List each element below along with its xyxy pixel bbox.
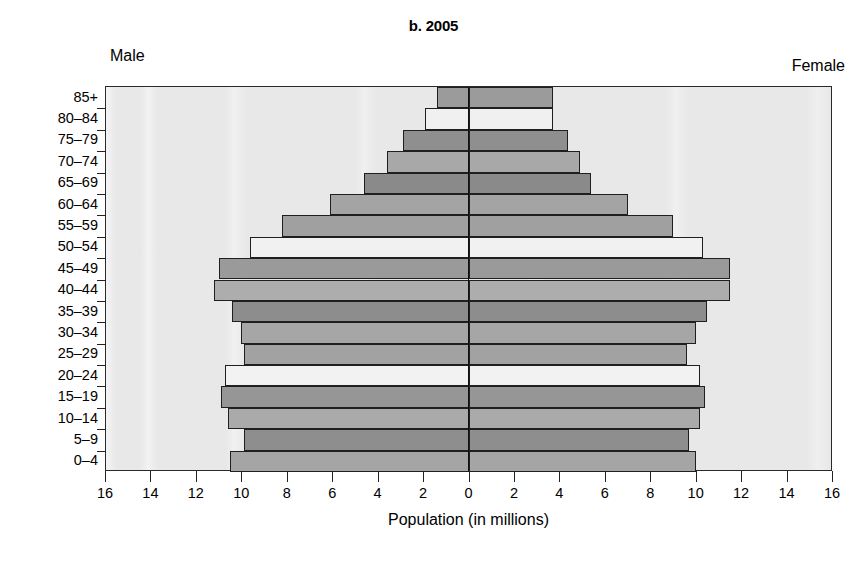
y-axis-label-20-24: 20–24 (32, 368, 98, 383)
x-axis-tick-label: 6 (585, 485, 625, 501)
x-axis-tick-label: 0 (449, 485, 489, 501)
y-axis-tick (97, 429, 106, 430)
bar-female (469, 365, 701, 386)
x-axis-tick (741, 471, 742, 482)
bar-male (221, 386, 469, 407)
bar-male (241, 322, 468, 343)
x-axis-tick (832, 471, 833, 482)
x-axis-tick (378, 471, 379, 482)
zero-axis-line (468, 87, 470, 470)
bar-female (469, 386, 705, 407)
y-axis-label-45-49: 45–49 (32, 261, 98, 276)
x-axis-tick-label: 2 (403, 485, 443, 501)
x-axis-tick-label: 10 (221, 485, 261, 501)
x-axis-tick-label: 4 (358, 485, 398, 501)
y-axis-tick (97, 344, 106, 345)
bar-female (469, 173, 592, 194)
x-axis-tick-label: 10 (676, 485, 716, 501)
y-axis-tick (97, 451, 106, 452)
bar-male (225, 365, 468, 386)
bar-male (219, 258, 469, 279)
bar-female (469, 280, 730, 301)
y-axis-label-85-: 85+ (32, 90, 98, 105)
x-axis-tick-label: 12 (721, 485, 761, 501)
y-axis-label-25-29: 25–29 (32, 346, 98, 361)
x-axis-tick (423, 471, 424, 482)
x-axis-tick (332, 471, 333, 482)
bar-female (469, 87, 553, 108)
bar-female (469, 451, 696, 472)
x-axis-title: Population (in millions) (105, 511, 832, 529)
y-axis-label-30-34: 30–34 (32, 325, 98, 340)
bar-male (364, 173, 469, 194)
bar-female (469, 130, 569, 151)
x-axis-tick-label: 4 (539, 485, 579, 501)
bar-male (387, 151, 469, 172)
bar-female (469, 215, 673, 236)
y-axis-tick (97, 322, 106, 323)
x-axis-tick (650, 471, 651, 482)
x-axis-tick-label: 8 (630, 485, 670, 501)
x-axis-tick (787, 471, 788, 482)
female-side-label: Female (792, 57, 845, 75)
bar-male (228, 408, 469, 429)
bar-female (469, 344, 687, 365)
bar-female (469, 108, 553, 129)
bar-male (330, 194, 469, 215)
y-axis-label-40-44: 40–44 (32, 282, 98, 297)
bar-male (282, 215, 468, 236)
population-pyramid-figure: b. 2005 Male Female 85+80–8475–7970–7465… (0, 0, 867, 573)
y-axis-tick (97, 280, 106, 281)
y-axis-tick (97, 151, 106, 152)
y-axis-tick (97, 365, 106, 366)
bar-male (214, 280, 468, 301)
plot-area (105, 86, 832, 471)
x-axis-tick-label: 6 (312, 485, 352, 501)
y-axis-label-35-39: 35–39 (32, 304, 98, 319)
y-axis-label-55-59: 55–59 (32, 218, 98, 233)
x-axis-tick-label: 14 (130, 485, 170, 501)
x-axis-tick-label: 16 (812, 485, 852, 501)
y-axis-labels: 85+80–8475–7970–7465–6960–6455–5950–5445… (30, 86, 98, 471)
x-axis-tick-label: 2 (494, 485, 534, 501)
x-axis-tick (287, 471, 288, 482)
bar-female (469, 322, 696, 343)
y-axis-tick (97, 386, 106, 387)
x-axis-tick-label: 16 (85, 485, 125, 501)
bar-female (469, 429, 689, 450)
y-axis-label-75-79: 75–79 (32, 132, 98, 147)
x-axis-tick (150, 471, 151, 482)
y-axis-label-65-69: 65–69 (32, 175, 98, 190)
bar-male (425, 108, 468, 129)
bar-male (230, 451, 469, 472)
bar-female (469, 151, 580, 172)
male-side-label: Male (110, 47, 145, 65)
chart-title: b. 2005 (0, 17, 867, 34)
y-axis-tick (97, 301, 106, 302)
y-axis-label-60-64: 60–64 (32, 197, 98, 212)
x-axis-tick-label: 14 (767, 485, 807, 501)
bar-female (469, 194, 628, 215)
x-axis-tick (559, 471, 560, 482)
x-axis-tick-label: 12 (176, 485, 216, 501)
y-axis-tick (97, 130, 106, 131)
y-axis-tick (97, 237, 106, 238)
x-axis-tick (469, 471, 470, 482)
bar-male (403, 130, 469, 151)
bar-male (232, 301, 468, 322)
y-axis-label-15-19: 15–19 (32, 389, 98, 404)
y-axis-label-80-84: 80–84 (32, 111, 98, 126)
bar-male (437, 87, 469, 108)
x-axis-tick (696, 471, 697, 482)
bar-male (244, 429, 469, 450)
x-axis-tick (514, 471, 515, 482)
x-axis-tick (605, 471, 606, 482)
bar-female (469, 408, 701, 429)
x-axis: 1614121086420246810121416 (105, 471, 832, 472)
y-axis-label-50-54: 50–54 (32, 239, 98, 254)
y-axis-tick (97, 108, 106, 109)
bar-male (250, 237, 468, 258)
y-axis-tick (97, 258, 106, 259)
x-axis-tick (196, 471, 197, 482)
y-axis-label-0-4: 0–4 (32, 453, 98, 468)
